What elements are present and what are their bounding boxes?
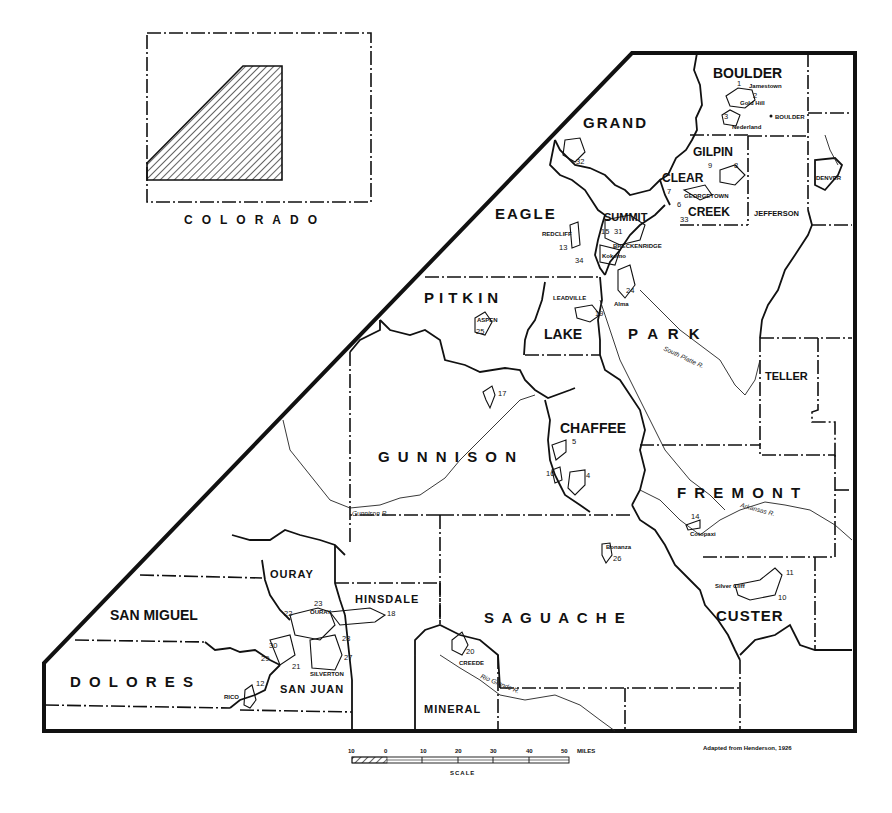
map-canvas: COLORADO [0,0,892,813]
district-number: 1 [737,79,741,88]
district-number: 6 [677,200,681,209]
district-number: 32 [576,157,584,166]
town-label-silver-cliff: Silver Cliff [715,583,746,589]
inset-label: COLORADO [184,213,326,227]
scale-tick-label: 20 [455,748,462,754]
district-number: 19 [595,309,603,318]
town-label-ouray: OURAY [310,609,331,615]
district-14 [686,520,700,530]
county-label-grand: GRAND [583,114,648,131]
town-label-nederland: Nederland [732,124,762,130]
district-number: 7 [667,187,671,196]
county-label-pitkin: PITKIN [424,289,503,306]
boundary-lake-west [524,282,545,355]
county-label-san-juan: SAN JUAN [280,683,344,695]
county-label-custer: CUSTER [716,607,784,624]
district-27-28 [310,635,342,670]
county-label-boulder: BOULDER [713,65,782,81]
town-label-gold-hill: Gold Hill [740,100,765,106]
district-number: 4 [586,471,590,480]
town-label-leadville: LEADVILLE [553,295,586,301]
map-credit: Adapted from Henderson, 1926 [703,745,792,751]
town-label-rico: RICO [224,694,239,700]
river-label-rio-grande: Rio Grande R. [480,672,521,694]
scale-tick-label: 40 [526,748,533,754]
boundary-san-miguel-north [140,575,262,578]
district-number: 5 [572,437,576,446]
town-label-georgetown: GEORGETOWN [684,193,729,199]
town-label-alma: Alma [614,301,629,307]
county-label-fremont: F R E M O N T [677,484,802,501]
county-label-creek: CREEK [688,205,730,219]
boundary-dolores-north [75,640,205,642]
district-number: 29 [261,654,269,663]
town-label-silverton: SILVERTON [310,671,344,677]
county-label-jefferson: JEFFERSON [754,209,799,218]
boundary-park-jefferson [760,225,812,338]
scale-tick-label: 10 [420,748,427,754]
scale-tick-label: 10 [348,748,355,754]
district-8-9 [720,165,745,185]
district-number: 20 [466,647,474,656]
district-number: 14 [691,512,699,521]
district-number: 16 [546,469,554,478]
district-number: 33 [680,215,688,224]
county-label-eagle: EAGLE [495,205,557,222]
river-platte-denver [825,135,838,165]
district-number: 17 [498,389,506,398]
inset-map: COLORADO [147,33,371,227]
scale-tick-label: 30 [490,748,497,754]
river-label-gunnison: Gunnison R. [352,510,388,517]
scale-tick-label: 50 [561,748,568,754]
boundary-dolores-south [45,705,230,708]
county-label-summit: SUMMIT [604,211,648,223]
district-number: 22 [284,609,292,618]
district-number: 10 [778,593,786,602]
boundary-san-juan-east [345,615,352,731]
district-number: 23 [314,599,322,608]
county-label-dolores: D O L O R E S [70,673,195,690]
county-label-gunnison: G U N N I S O N [378,448,518,465]
town-label-boulder: BOULDER [775,114,805,120]
scale-tick-label: 0 [384,748,388,754]
town-label-cotopaxi: Cotopaxi [690,531,716,537]
boundary-ouray-north [232,530,345,555]
district-number: 3 [724,112,728,121]
boundary-fremont-north [640,445,835,455]
county-label-gilpin: GILPIN [693,145,733,159]
scale-unit: MILES [577,748,595,754]
town-label-bonanza: Bonanza [606,544,632,550]
boundary-grand-east [660,53,702,180]
district-number: 25 [476,327,484,336]
river-label-south-platte: South Platte R. [663,345,706,370]
study-area-hatch [147,66,282,180]
county-label-teller: TELLER [765,370,808,382]
river-label-arkansas: Arkansas R. [739,501,776,517]
scale-bar: 10 0 10 20 30 40 50 MILES SCALE [348,748,595,776]
county-label-denver: DENVER [816,175,842,181]
district-number: 13 [559,243,567,252]
town-dot-boulder [770,115,773,118]
boundary-denver [815,158,842,190]
district-number: 34 [575,256,583,265]
district-number: 30 [269,641,277,650]
district-number: 26 [613,554,621,563]
district-29-30 [270,635,295,665]
boundary-pitkin-west [350,320,380,352]
boundary-san-juan-south [240,710,352,712]
county-label-lake: LAKE [544,326,582,342]
boundary-fremont-east-south [700,455,835,557]
district-number: 9 [708,161,712,170]
town-label-breckenridge: BRECKENRIDGE [613,243,662,249]
river-south-platte [640,290,760,395]
district-number: 2 [753,91,757,100]
district-5 [552,440,566,460]
county-label-hinsdale: HINSDALE [355,593,419,605]
district-number: 8 [734,161,738,170]
district-number: 28 [342,634,350,643]
district-numbers: 1 2 3 4 5 6 7 8 9 10 11 12 13 14 15 16 1… [256,79,794,688]
district-number: 27 [344,653,352,662]
town-label-redcliff: REDCLIFF [542,231,572,237]
county-label-chaffee: CHAFFEE [560,420,626,436]
district-number: 11 [786,568,794,577]
